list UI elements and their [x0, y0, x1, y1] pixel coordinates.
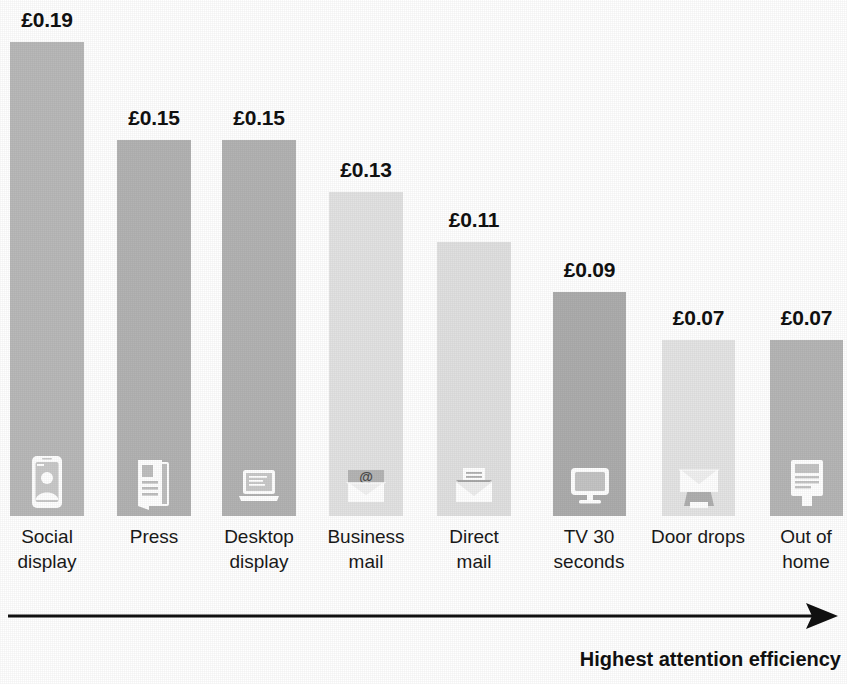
- bar-group-social-display[interactable]: £0.19: [10, 0, 84, 516]
- category-axis-labels: Social display Press Desktop display Bus…: [0, 524, 847, 584]
- billboard-out-of-home-icon: [784, 454, 830, 510]
- value-label-social-display: £0.19: [0, 8, 96, 32]
- category-label-line: Business: [327, 526, 404, 547]
- bar-group-desktop-display[interactable]: £0.15: [222, 0, 296, 516]
- category-label-press: Press: [105, 524, 203, 549]
- category-label-line: TV 30: [564, 526, 615, 547]
- television-icon: [567, 454, 613, 510]
- category-label-business-mail: Business mail: [317, 524, 415, 574]
- value-label-desktop-display: £0.15: [210, 106, 308, 130]
- envelope-letter-direct-mail-icon: [451, 454, 497, 510]
- category-label-line: seconds: [554, 551, 625, 572]
- category-label-line: display: [17, 551, 76, 572]
- category-label-line: Direct: [449, 526, 499, 547]
- category-label-tv-30-seconds: TV 30 seconds: [540, 524, 638, 574]
- category-label-social-display: Social display: [0, 524, 96, 574]
- value-label-tv-30-seconds: £0.09: [541, 258, 638, 282]
- bar-social-display[interactable]: [10, 42, 84, 516]
- arrow-caption: Highest attention efficiency: [580, 648, 841, 671]
- category-label-line: home: [782, 551, 830, 572]
- category-label-direct-mail: Direct mail: [425, 524, 523, 574]
- bar-tv-30-seconds[interactable]: [553, 292, 626, 516]
- category-label-line: Press: [130, 526, 179, 547]
- category-label-line: Out of: [780, 526, 832, 547]
- category-label-line: display: [229, 551, 288, 572]
- category-label-line: Door drops: [651, 526, 745, 547]
- value-label-door-drops: £0.07: [650, 306, 747, 330]
- bar-business-mail[interactable]: @: [329, 192, 403, 516]
- bar-group-door-drops[interactable]: £0.07: [662, 0, 735, 516]
- category-label-line: mail: [349, 551, 384, 572]
- envelope-letterbox-door-drop-icon: [676, 454, 722, 510]
- bar-out-of-home[interactable]: [770, 340, 843, 516]
- value-label-direct-mail: £0.11: [425, 208, 523, 232]
- bar-desktop-display[interactable]: [222, 140, 296, 516]
- smartphone-social-icon: [24, 454, 70, 510]
- bar-group-tv-30-seconds[interactable]: £0.09: [553, 0, 626, 516]
- newspaper-press-icon: [131, 454, 177, 510]
- category-label-line: Social: [21, 526, 73, 547]
- category-label-desktop-display: Desktop display: [210, 524, 308, 574]
- bar-group-business-mail[interactable]: £0.13 @: [329, 0, 403, 516]
- value-label-business-mail: £0.13: [317, 158, 415, 182]
- bar-group-press[interactable]: £0.15: [117, 0, 191, 516]
- bar-group-out-of-home[interactable]: £0.07: [770, 0, 843, 516]
- attention-efficiency-bar-chart: £0.19 £0.15: [0, 0, 847, 684]
- attention-efficiency-arrow: [0, 596, 847, 636]
- bar-direct-mail[interactable]: [437, 242, 511, 516]
- category-label-line: mail: [457, 551, 492, 572]
- category-label-line: Desktop: [224, 526, 294, 547]
- laptop-desktop-icon: [236, 454, 282, 510]
- category-label-door-drops: Door drops: [639, 524, 757, 549]
- envelope-at-business-mail-icon: @: [343, 454, 389, 510]
- value-label-out-of-home: £0.07: [758, 306, 847, 330]
- bar-press[interactable]: [117, 140, 191, 516]
- category-label-out-of-home: Out of home: [757, 524, 847, 574]
- value-label-press: £0.15: [105, 106, 203, 130]
- arrow-right-icon: [0, 596, 847, 636]
- plot-area: £0.19 £0.15: [0, 0, 847, 516]
- bar-door-drops[interactable]: [662, 340, 735, 516]
- svg-text:@: @: [359, 469, 373, 485]
- bar-group-direct-mail[interactable]: £0.11: [437, 0, 511, 516]
